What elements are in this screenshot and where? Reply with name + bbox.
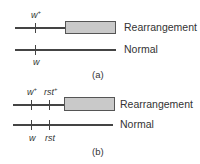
gene-tick-w-plus — [35, 23, 36, 33]
rearrangement-label: Rearrangement — [124, 21, 197, 33]
gene-tick-rst — [49, 120, 50, 130]
gene-label-w: w — [33, 57, 40, 67]
rearranged-segment-box — [64, 97, 115, 111]
gene-label-w: w — [29, 133, 36, 143]
panel-caption-a: (a) — [92, 69, 104, 80]
rearrangement-chromosome-line — [15, 27, 66, 29]
gene-label-w-plus: w+ — [27, 86, 37, 97]
normal-label: Normal — [124, 43, 158, 55]
rearrangement-chromosome-line — [13, 104, 65, 106]
normal-label: Normal — [120, 118, 154, 130]
gene-tick-rst-plus — [49, 100, 50, 110]
normal-chromosome-line — [15, 49, 116, 51]
gene-label-w-plus: w+ — [31, 9, 41, 20]
panel-caption-b: (b) — [92, 146, 104, 157]
gene-tick-w — [31, 120, 32, 130]
gene-label-rst-plus: rst+ — [44, 86, 58, 97]
gene-tick-w-plus — [31, 100, 32, 110]
rearranged-segment-box — [65, 21, 116, 34]
gene-label-rst: rst — [45, 133, 55, 143]
gene-tick-w — [35, 45, 36, 55]
normal-chromosome-line — [13, 124, 113, 126]
rearrangement-label: Rearrangement — [120, 98, 193, 110]
